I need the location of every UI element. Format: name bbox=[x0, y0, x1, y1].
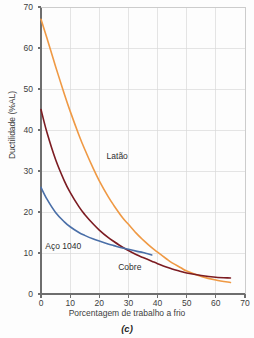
figure-container: Ductilidade (%AL) Porcentagem de trabalh… bbox=[0, 0, 254, 338]
x-tick-label: 0 bbox=[28, 299, 54, 308]
y-tick-label: 40 bbox=[7, 126, 33, 135]
x-tick-label: 70 bbox=[232, 299, 254, 308]
x-tick-label: 10 bbox=[57, 299, 83, 308]
plot-overlay: 010203040506070010203040506070LatãoCobre… bbox=[0, 0, 254, 338]
y-tick-label: 30 bbox=[7, 167, 33, 176]
y-tick-label: 50 bbox=[7, 85, 33, 94]
x-tick-label: 50 bbox=[174, 299, 200, 308]
y-tick-label: 20 bbox=[7, 208, 33, 217]
y-tick-label: 0 bbox=[7, 290, 33, 299]
x-tick-label: 60 bbox=[203, 299, 229, 308]
series-label-cobre: Cobre bbox=[118, 263, 141, 272]
x-tick-label: 30 bbox=[115, 299, 141, 308]
x-tick-label: 40 bbox=[145, 299, 171, 308]
series-label-aço-1040: Aço 1040 bbox=[45, 242, 81, 251]
x-tick-label: 20 bbox=[86, 299, 112, 308]
y-tick-label: 10 bbox=[7, 249, 33, 258]
y-tick-label: 60 bbox=[7, 44, 33, 53]
y-tick-label: 70 bbox=[7, 3, 33, 12]
series-label-latão: Latão bbox=[107, 152, 128, 161]
